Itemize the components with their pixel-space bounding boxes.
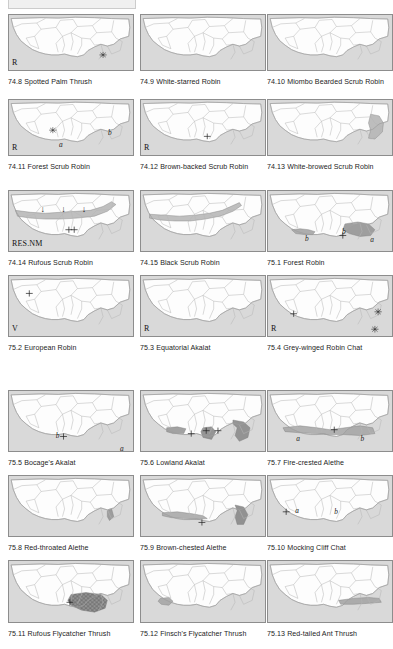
map-panel-cell: 74.9 White-starred Robin [140,14,266,85]
subrange-label: a [295,507,299,514]
status-badge: R [144,325,150,333]
distribution-map[interactable] [267,190,393,252]
distribution-map[interactable] [140,560,266,623]
panel-caption: 75.13 Red-tailed Ant Thrush [267,630,357,639]
distribution-map[interactable] [8,275,134,337]
map-panel-cell: 75.9 Brown-chested Alethe [140,475,266,551]
map-panel-cell: 75.6 Lowland Akalat [140,390,266,466]
map-panel-cell: ab75.7 Fire-crested Alethe [267,390,393,466]
panel-caption: 74.12 Brown-backed Scrub Robin [140,163,248,172]
map-panel-cell: V75.2 European Robin [8,275,134,351]
panel-caption: 75.5 Bocage's Akalat [8,459,75,468]
map-panel-cell: ba75.5 Bocage's Akalat [8,390,134,466]
map-panel-cell: 75.13 Red-tailed Ant Thrush [267,560,393,637]
distribution-map[interactable] [140,14,266,71]
panel-caption: 75.7 Fire-crested Alethe [267,459,344,468]
map-panel-cell: R75.3 Equatorial Akalat [140,275,266,351]
subrange-label: a [370,236,374,243]
subrange-label: b [334,508,338,515]
distribution-map[interactable] [8,99,134,156]
map-panel-cell: R74.12 Brown-backed Scrub Robin [140,99,266,170]
panel-caption: 75.8 Red-throated Alethe [8,544,89,553]
panel-caption: 74.10 Miombo Bearded Scrub Robin [267,78,384,87]
map-panel-cell: 75.12 Finsch's Flycatcher Thrush [140,560,266,637]
status-badge: RES.NM [12,240,43,248]
map-panel-cell: 75.11 Rufous Flycatcher Thrush [8,560,134,637]
subrange-label: b [342,228,346,235]
migration-arrow-icon: ↓ [61,206,66,213]
distribution-map[interactable] [8,390,134,452]
status-badge: R [271,325,277,333]
panel-caption: 74.8 Spotted Palm Thrush [8,78,92,87]
subrange-label: a [59,141,63,148]
map-panel-cell: ab75.10 Mocking Cliff Chat [267,475,393,551]
panel-caption: 75.9 Brown-chested Alethe [140,544,227,553]
distribution-map[interactable] [140,390,266,452]
panel-caption: 74.14 Rufous Scrub Robin [8,259,93,268]
panel-caption: 75.3 Equatorial Akalat [140,344,211,353]
distribution-map[interactable] [267,275,393,337]
subrange-label: a [120,445,124,452]
panel-caption: 75.4 Grey-winged Robin Chat [267,344,362,353]
distribution-map[interactable] [267,390,393,452]
subrange-label: b [360,435,364,442]
status-badge: R [12,144,18,152]
subrange-label: b [56,432,60,439]
map-panel-cell: Rab74.11 Forest Scrub Robin [8,99,134,170]
panel-caption: 75.1 Forest Robin [267,259,325,268]
distribution-map[interactable] [140,475,266,537]
migration-arrow-icon: ↓ [41,206,46,213]
panel-caption: 75.11 Rufous Flycatcher Thrush [8,630,110,639]
panel-caption: 75.12 Finsch's Flycatcher Thrush [140,630,246,639]
distribution-map[interactable] [8,560,134,623]
distribution-map[interactable] [8,14,134,71]
distribution-map[interactable] [140,190,266,252]
panel-caption: 74.11 Forest Scrub Robin [8,163,90,172]
migration-arrow-icon: ↓ [82,206,87,213]
distribution-map[interactable] [267,475,393,537]
panel-caption: 74.9 White-starred Robin [140,78,221,87]
distribution-map[interactable] [267,14,393,71]
panel-caption: 75.6 Lowland Akalat [140,459,205,468]
panel-caption: 75.2 European Robin [8,344,76,353]
status-badge: R [12,59,18,67]
panel-caption: 75.10 Mocking Cliff Chat [267,544,346,553]
map-panel-cell: RES.NM↓↓↓74.14 Rufous Scrub Robin [8,190,134,266]
panel-caption: 74.13 White-browed Scrub Robin [267,163,374,172]
status-badge: V [12,325,18,333]
distribution-map[interactable] [8,475,134,537]
map-panel-cell: 74.10 Miombo Bearded Scrub Robin [267,14,393,85]
subrange-label: a [296,435,300,442]
distribution-map[interactable] [267,99,393,156]
distribution-map[interactable] [140,99,266,156]
subrange-label: b [108,129,112,136]
map-panel-cell: bba75.1 Forest Robin [267,190,393,266]
map-panel-cell: 74.13 White-browed Scrub Robin [267,99,393,170]
map-panel-cell: R75.4 Grey-winged Robin Chat [267,275,393,351]
subrange-label: b [305,235,309,242]
map-panel-cell: R74.8 Spotted Palm Thrush [8,14,134,85]
distribution-map[interactable] [267,560,393,623]
distribution-map[interactable] [140,275,266,337]
map-panel-cell: 74.15 Black Scrub Robin [140,190,266,266]
map-panel-cell: 75.8 Red-throated Alethe [8,475,134,551]
status-badge: R [144,144,150,152]
panel-caption: 74.15 Black Scrub Robin [140,259,220,268]
